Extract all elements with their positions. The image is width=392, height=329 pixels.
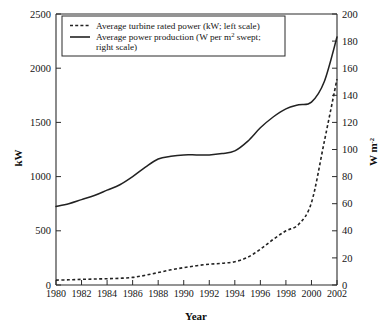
- svg-text:W m-2: W m-2: [367, 137, 379, 166]
- left-ticklabel-2000: 2000: [30, 63, 51, 74]
- right-axis-title-main: W m: [367, 143, 379, 166]
- series-line-average-turbine-rated-power: [56, 79, 337, 280]
- bottom-ticklabel-2002: 2002: [327, 288, 347, 299]
- wind-turbine-power-chart: 0 500 1000 1500 2000 2500 0 20 40 60 80: [0, 0, 392, 329]
- right-ticklabel-80: 80: [342, 171, 353, 182]
- right-ticklabel-160: 160: [342, 63, 358, 74]
- bottom-ticklabel-1988: 1988: [148, 288, 168, 299]
- legend-label-turbine-rated-power: Average turbine rated power (kW; left sc…: [96, 21, 260, 31]
- legend-label-power-production-tail: swept;: [234, 32, 260, 42]
- right-ticklabel-40: 40: [342, 225, 353, 236]
- left-ticklabel-1500: 1500: [30, 117, 51, 128]
- bottom-ticklabel-2000: 2000: [301, 288, 321, 299]
- left-ticklabel-1000: 1000: [30, 171, 51, 182]
- bottom-ticklabel-1986: 1986: [123, 288, 143, 299]
- right-ticklabel-180: 180: [342, 36, 358, 47]
- bottom-ticklabel-1992: 1992: [199, 288, 219, 299]
- right-ticklabel-120: 120: [342, 117, 358, 128]
- right-ticklabel-20: 20: [342, 253, 353, 264]
- bottom-axis-ticks: [56, 280, 337, 285]
- bottom-ticklabel-1980: 1980: [46, 288, 66, 299]
- bottom-ticklabel-1994: 1994: [225, 288, 245, 299]
- right-ticklabel-60: 60: [342, 198, 353, 209]
- bottom-ticklabel-1982: 1982: [72, 288, 92, 299]
- right-axis-title-superscript: -2: [368, 137, 375, 143]
- bottom-ticklabel-1990: 1990: [174, 288, 194, 299]
- right-ticklabel-100: 100: [342, 144, 358, 155]
- legend-label-power-production-line2: right scale): [96, 42, 137, 52]
- chart-figure: 0 500 1000 1500 2000 2500 0 20 40 60 80: [0, 0, 392, 329]
- right-ticklabel-200: 200: [342, 9, 358, 20]
- right-axis-title: W m-2: [367, 137, 379, 166]
- left-ticklabel-2500: 2500: [30, 9, 51, 20]
- chart-legend: Average turbine rated power (kW; left sc…: [62, 16, 285, 56]
- right-ticklabel-140: 140: [342, 90, 358, 101]
- left-axis-title: kW: [12, 149, 24, 166]
- data-series-group: [56, 37, 337, 280]
- bottom-axis-ticklabels: 1980198219841986198819901992199419961998…: [46, 288, 347, 299]
- bottom-ticklabel-1996: 1996: [250, 288, 270, 299]
- legend-label-power-production-main: Average power production (W per m: [96, 32, 231, 42]
- left-ticklabel-500: 500: [35, 225, 51, 236]
- bottom-axis-title: Year: [185, 310, 207, 322]
- legend-label-power-production-line1: Average power production (W per m2 swept…: [96, 31, 261, 42]
- bottom-ticklabel-1998: 1998: [276, 288, 296, 299]
- series-line-average-power-production: [56, 37, 337, 206]
- right-axis-ticks: 0 20 40 60 80 100 120 140 160 180 200: [332, 9, 358, 291]
- bottom-ticklabel-1984: 1984: [97, 288, 117, 299]
